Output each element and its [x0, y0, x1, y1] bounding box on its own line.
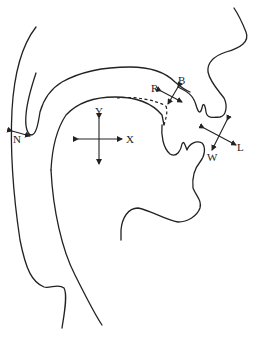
W-arrow [212, 120, 227, 150]
diagram-canvas [0, 0, 253, 337]
palate-reference-dashed [117, 97, 166, 106]
velum-outline [26, 67, 190, 135]
R-arrow [161, 91, 182, 102]
tongue-tip-dashed [164, 106, 167, 125]
vocal-tract-diagram: N Y X R B W L [0, 0, 253, 337]
upper-lip-profile [178, 8, 247, 117]
L-arrow [204, 128, 236, 145]
posterior-pharynx-wall [11, 27, 65, 328]
label-Y: Y [95, 106, 103, 117]
label-W: W [207, 152, 217, 163]
tongue-root-line [51, 170, 102, 325]
label-B: B [178, 75, 185, 86]
label-R: R [151, 83, 158, 94]
label-X: X [126, 134, 134, 145]
tongue-outline [51, 97, 164, 170]
label-N: N [13, 134, 21, 145]
label-L: L [237, 142, 244, 153]
